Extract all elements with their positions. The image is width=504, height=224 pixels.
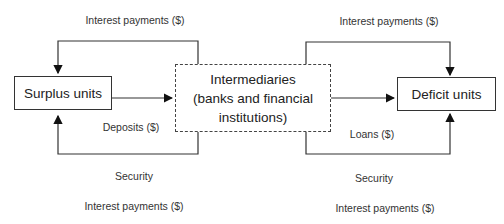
surplus-units-box: Surplus units (14, 76, 112, 110)
interest-payments-bottom-left: Interest payments ($) (84, 200, 183, 212)
surplus-units-label: Surplus units (24, 86, 102, 101)
interest-payments-top-left: Interest payments ($) (85, 14, 184, 26)
deficit-units-box: Deficit units (397, 77, 496, 111)
intermediaries-box: Intermediaries (banks and financial inst… (175, 64, 331, 132)
intermediaries-line2: (banks and financial (193, 89, 313, 108)
security-left: Security (115, 170, 153, 182)
loans-label: Loans ($) (350, 128, 394, 140)
deficit-units-label: Deficit units (412, 87, 482, 102)
intermediaries-line3: institutions) (219, 108, 287, 127)
interest-payments-bottom-right: Interest payments ($) (335, 202, 434, 214)
interest-payments-top-right: Interest payments ($) (339, 15, 438, 27)
intermediaries-line1: Intermediaries (210, 70, 296, 89)
deposits-label: Deposits ($) (103, 121, 160, 133)
security-right: Security (355, 172, 393, 184)
